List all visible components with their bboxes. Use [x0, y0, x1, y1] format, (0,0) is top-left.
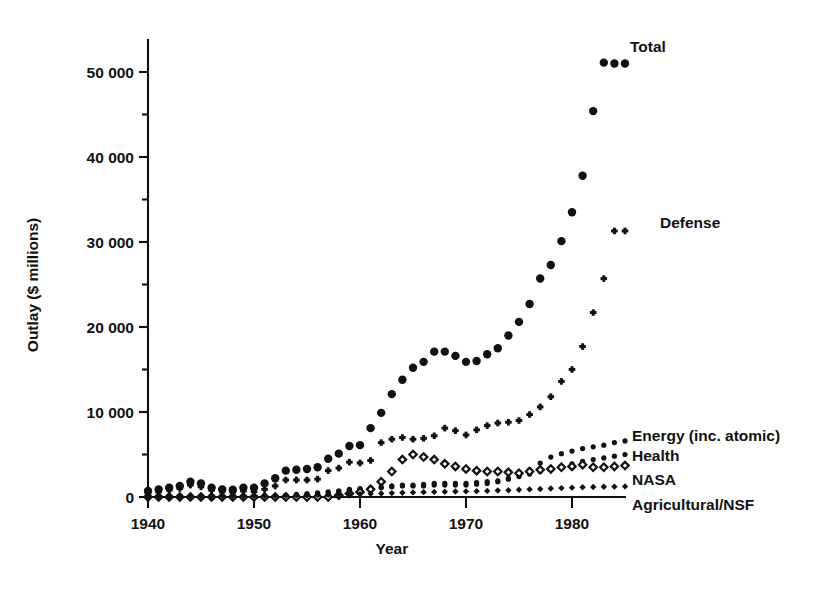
series-health-point	[485, 479, 490, 484]
series-health-point	[474, 480, 479, 485]
series-agricultural-nsf-point	[410, 489, 416, 495]
y-tick-label: 40 000	[87, 149, 134, 166]
series-total-point	[335, 449, 343, 457]
series-total-point	[483, 350, 491, 358]
series-health-point	[495, 478, 500, 483]
series-energy-inc-atomic-point	[548, 454, 553, 459]
x-tick-label: 1980	[555, 515, 589, 532]
series-agricultural-nsf-point	[452, 488, 458, 494]
series-total-point	[610, 59, 618, 67]
series-nasa-point	[484, 468, 491, 475]
series-nasa-point	[611, 463, 618, 470]
series-nasa-point	[590, 464, 597, 471]
series-agricultural-nsf-point	[463, 488, 469, 494]
series-agricultural-nsf-point	[590, 484, 596, 490]
series-nasa-point	[621, 462, 628, 469]
series-defense-annotation: Defense	[660, 214, 721, 231]
y-tick-label: 50 000	[87, 64, 134, 81]
series-nasa-point	[431, 456, 438, 463]
x-axis-title: Year	[375, 540, 408, 557]
series-total-point	[536, 274, 544, 282]
series-total-point	[345, 442, 353, 450]
series-total-point	[356, 441, 364, 449]
series-total-point	[324, 455, 332, 463]
series-total-point	[515, 318, 523, 326]
series-agricultural-nsf-point	[473, 488, 479, 494]
series-total-point	[377, 409, 385, 417]
series-nasa-point	[494, 468, 501, 475]
series-total-point	[557, 237, 565, 245]
series-agricultural-nsf-point	[622, 483, 628, 489]
y-axis-title: Outlay ($ millions)	[24, 218, 41, 352]
series-health-point	[389, 483, 394, 488]
series-health-point	[421, 482, 426, 487]
series-total-point	[600, 58, 608, 66]
x-tick-label: 1960	[343, 515, 377, 532]
series-health-point	[453, 481, 458, 486]
series-total-point	[589, 107, 597, 115]
series-nasa-point	[558, 464, 565, 471]
series-nasa-point	[409, 451, 416, 458]
series-agricultural-nsf-point	[611, 483, 617, 489]
series-nasa-point	[568, 463, 575, 470]
series-nasa-point	[388, 468, 395, 475]
y-tick-label: 20 000	[87, 319, 134, 336]
series-energy-inc-atomic-point	[591, 444, 596, 449]
series-agricultural-nsf-point	[505, 487, 511, 493]
y-tick-label: 10 000	[87, 404, 134, 421]
series-total-point	[430, 347, 438, 355]
series-agricultural-nsf-point	[579, 484, 585, 490]
series-total-annotation: Total	[630, 38, 666, 55]
series-agricultural-nsf-point	[495, 487, 501, 493]
series-agricultural-nsf-point	[548, 485, 554, 491]
series-nasa-point	[600, 464, 607, 471]
series-total-point	[568, 208, 576, 216]
series-total-point	[441, 347, 449, 355]
series-energy-inc-atomic-point	[612, 440, 617, 445]
series-agricultural-nsf-point	[399, 490, 405, 496]
series-nasa-point	[462, 465, 469, 472]
series-health-point	[442, 481, 447, 486]
series-nasa-point	[515, 470, 522, 477]
series-total-point	[388, 390, 396, 398]
series-agricultural-nsf-point	[431, 489, 437, 495]
series-total-point	[303, 465, 311, 473]
series-health-point	[591, 457, 596, 462]
series-agricultural-nsf-point	[389, 490, 395, 496]
series-nasa-point	[547, 465, 554, 472]
series-total-point	[282, 466, 290, 474]
series-nasa-point	[505, 469, 512, 476]
series-energy-inc-atomic-point	[559, 451, 564, 456]
series-agricultural-nsf-point	[537, 486, 543, 492]
series-energy-inc-atomic-point	[580, 446, 585, 451]
series-health-point	[463, 481, 468, 486]
series-nasa-point	[473, 467, 480, 474]
series-health-point	[432, 481, 437, 486]
series-health-point	[400, 483, 405, 488]
series-energy-inc-atomic-point	[569, 449, 574, 454]
series-energy-inc-atomic-point	[622, 438, 627, 443]
x-tick-label: 1940	[131, 515, 165, 532]
series-nasa-point	[378, 478, 385, 485]
series-total-point	[419, 358, 427, 366]
series-health-point	[612, 454, 617, 459]
series-total-point	[525, 300, 533, 308]
series-nasa-annotation: NASA	[632, 471, 676, 488]
series-total-point	[313, 463, 321, 471]
series-total-point	[621, 59, 629, 67]
series-agricultural-nsf-point	[526, 486, 532, 492]
series-agricultural-nsf-point	[420, 489, 426, 495]
series-nasa-point	[420, 453, 427, 460]
series-health-point	[622, 452, 627, 457]
x-tick-label: 1970	[449, 515, 483, 532]
series-agricultural-nsf-point	[442, 489, 448, 495]
series-health-point	[601, 455, 606, 460]
series-total-point	[547, 261, 555, 269]
series-agricultural-nsf-point	[484, 488, 490, 494]
series-nasa-point	[526, 468, 533, 475]
series-nasa-point	[441, 460, 448, 467]
series-agricultural-nsf-point	[516, 487, 522, 493]
x-tick-label: 1950	[237, 515, 271, 532]
series-total-point	[472, 357, 480, 365]
series-nasa-point	[399, 456, 406, 463]
